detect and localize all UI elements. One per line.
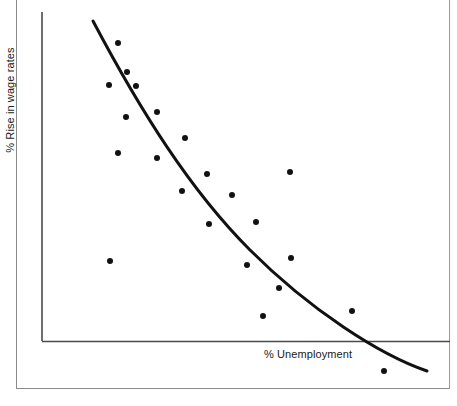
scatter-point <box>204 171 210 177</box>
scatter-point <box>115 40 121 46</box>
scatter-point <box>288 255 294 261</box>
phillips-curve-path <box>93 21 427 371</box>
scatter-point <box>133 83 139 89</box>
scatter-point <box>179 188 185 194</box>
scatter-point <box>123 114 129 120</box>
scatter-point <box>276 285 282 291</box>
x-axis-label-text: % Unemployment <box>264 348 352 360</box>
y-axis-label: % Rise in wage rates <box>0 0 20 200</box>
y-axis-label-text: % Rise in wage rates <box>4 47 16 152</box>
phillips-curve-plot <box>0 0 457 406</box>
x-axis-label: % Unemployment <box>264 348 352 360</box>
scatter-point <box>106 82 112 88</box>
scatter-point <box>381 368 387 374</box>
scatter-point <box>206 221 212 227</box>
scatter-point <box>253 219 259 225</box>
scatter-point <box>107 258 113 264</box>
axis-group <box>42 12 450 342</box>
scatter-point <box>287 169 293 175</box>
scatter-points-group <box>106 40 387 374</box>
scatter-point <box>229 192 235 198</box>
fitted-curve-group <box>93 21 427 371</box>
scatter-point <box>154 109 160 115</box>
scatter-point <box>124 69 130 75</box>
scatter-point <box>154 155 160 161</box>
scatter-point <box>260 313 266 319</box>
scatter-point <box>182 135 188 141</box>
scatter-point <box>349 308 355 314</box>
scatter-point <box>115 150 121 156</box>
scatter-point <box>244 262 250 268</box>
chart-page: % Rise in wage rates % Unemployment <box>0 0 457 406</box>
